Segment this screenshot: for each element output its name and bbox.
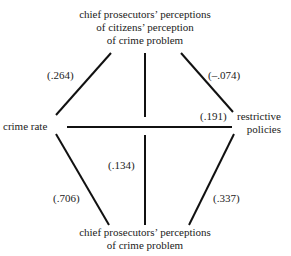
coef-706: (.706)	[53, 192, 80, 205]
coef-neg074: (–.074)	[208, 69, 240, 82]
node-top: chief prosecutors’ perceptions of citize…	[45, 8, 245, 47]
node-right-line2: policies	[237, 123, 281, 136]
edge-bottom-restrictive	[189, 134, 234, 225]
coef-264: (.264)	[47, 69, 74, 82]
node-right-line1: restrictive	[237, 110, 281, 123]
node-bottom-line1: chief prosecutors’ perceptions	[45, 226, 245, 239]
edge-top-restrictive	[181, 53, 233, 112]
node-top-line3: of crime problem	[45, 34, 245, 47]
node-bottom-line2: of crime problem	[45, 239, 245, 252]
node-top-line2: of citizens’ perception	[45, 21, 245, 34]
coef-191: (.191)	[200, 110, 227, 123]
node-crime-rate: crime rate	[3, 120, 47, 133]
node-restrictive-policies: restrictive policies	[237, 110, 281, 136]
coef-134: (.134)	[108, 159, 135, 172]
coef-337: (.337)	[213, 192, 240, 205]
node-bottom: chief prosecutors’ perceptions of crime …	[45, 226, 245, 252]
edge-crime-rate-bottom	[56, 134, 109, 225]
node-top-line1: chief prosecutors’ perceptions	[45, 8, 245, 21]
edge-crime-rate-top	[56, 53, 111, 115]
